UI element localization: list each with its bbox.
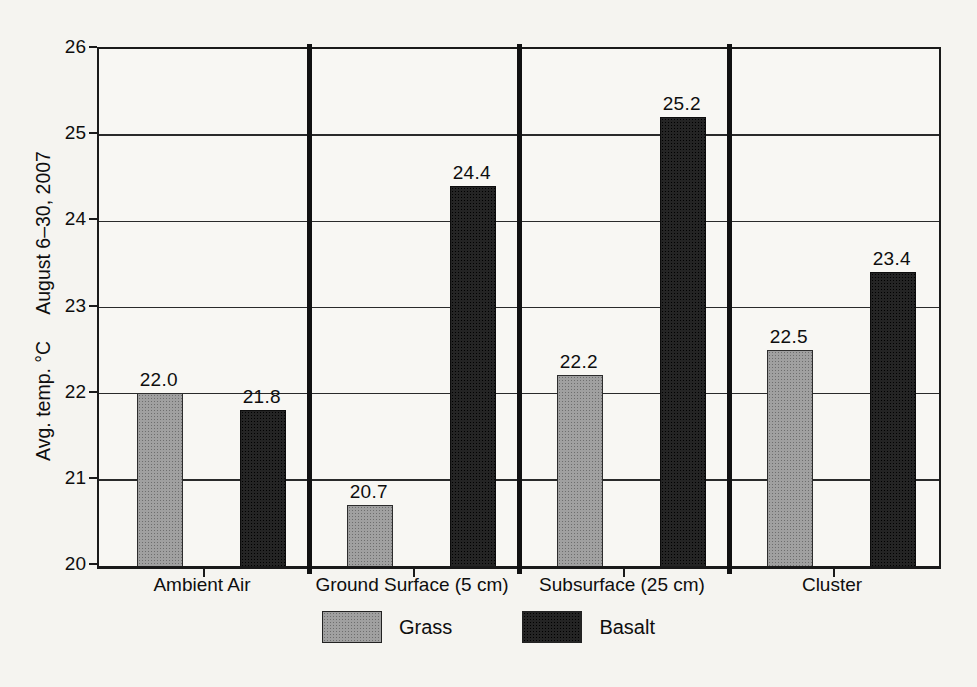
y-tick-mark-22 <box>89 391 97 393</box>
y-tick-label-22: 22 <box>0 381 86 403</box>
y-tick-mark-23 <box>89 305 97 307</box>
bar-grass-2 <box>347 505 393 566</box>
category-label-1: Ambient Air <box>153 574 250 596</box>
plot-area: 22.021.820.724.422.225.222.523.4 <box>97 47 941 569</box>
legend-label-grass: Grass <box>399 616 452 639</box>
y-tick-label-23: 23 <box>0 295 86 317</box>
category-label-4: Cluster <box>802 574 862 596</box>
bar-basalt-3 <box>660 117 706 566</box>
bar-grass-3 <box>557 375 603 566</box>
legend-item-grass: Grass <box>322 611 452 643</box>
value-label-grass-4: 22.5 <box>770 326 808 348</box>
y-tick-mark-26 <box>89 46 97 48</box>
y-tick-label-24: 24 <box>0 208 86 230</box>
basalt-swatch <box>522 611 582 643</box>
y-axis-title-dates: August 6–30, 2007 <box>32 151 54 315</box>
y-tick-mark-24 <box>89 218 97 220</box>
bar-grass-1 <box>137 393 183 566</box>
group-divider-2 <box>517 44 522 574</box>
category-label-3: Subsurface (25 cm) <box>539 574 705 596</box>
y-tick-mark-25 <box>89 132 97 134</box>
temperature-bar-chart-figure: Avg. temp. °CAugust 6–30, 2007 202122232… <box>0 0 977 687</box>
group-divider-1 <box>307 44 312 574</box>
value-label-basalt-2: 24.4 <box>453 162 491 184</box>
y-tick-mark-21 <box>89 477 97 479</box>
legend-item-basalt: Basalt <box>522 611 655 643</box>
bar-grass-4 <box>767 350 813 566</box>
group-divider-3 <box>727 44 732 574</box>
value-label-grass-2: 20.7 <box>350 481 388 503</box>
value-label-basalt-3: 25.2 <box>663 93 701 115</box>
y-tick-label-25: 25 <box>0 122 86 144</box>
y-tick-label-26: 26 <box>0 36 86 58</box>
value-label-basalt-1: 21.8 <box>243 386 281 408</box>
value-label-grass-1: 22.0 <box>140 369 178 391</box>
category-label-2: Ground Surface (5 cm) <box>315 574 508 596</box>
y-tick-mark-20 <box>89 563 97 565</box>
bar-basalt-4 <box>870 272 916 566</box>
grass-swatch <box>322 611 382 643</box>
y-tick-label-21: 21 <box>0 467 86 489</box>
value-label-basalt-4: 23.4 <box>873 248 911 270</box>
bar-basalt-1 <box>240 410 286 566</box>
y-tick-label-20: 20 <box>0 553 86 575</box>
legend: Grass Basalt <box>0 611 977 643</box>
value-label-grass-3: 22.2 <box>560 351 598 373</box>
legend-label-basalt: Basalt <box>599 616 655 639</box>
bar-basalt-2 <box>450 186 496 566</box>
